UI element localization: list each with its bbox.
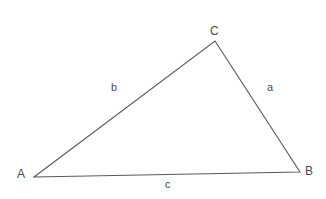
side-label-a: a: [267, 82, 273, 93]
triangle-shape: [0, 0, 326, 199]
side-label-b: b: [111, 82, 117, 93]
triangle-diagram: A B C a b c: [0, 0, 326, 199]
vertex-label-a: A: [17, 168, 25, 180]
side-label-c: c: [165, 179, 171, 190]
triangle-outline: [34, 41, 300, 177]
vertex-label-b: B: [305, 165, 313, 177]
vertex-label-c: C: [210, 25, 219, 37]
